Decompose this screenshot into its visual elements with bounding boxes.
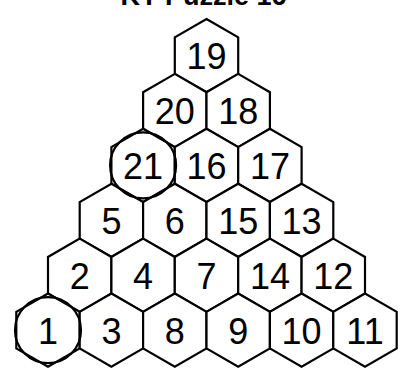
hex-number: 2 <box>70 256 90 297</box>
hex-number: 13 <box>282 201 322 242</box>
hex-number: 4 <box>133 256 153 297</box>
hex-number: 9 <box>228 311 248 352</box>
hex-number: 17 <box>250 146 290 187</box>
hex-number: 3 <box>101 311 121 352</box>
hex-number: 14 <box>250 256 290 297</box>
hex-number: 5 <box>101 201 121 242</box>
hex-number: 1 <box>38 311 58 352</box>
hex-number: 6 <box>165 201 185 242</box>
hex-number: 18 <box>218 91 258 132</box>
hex-number: 20 <box>155 91 195 132</box>
hex-number: 12 <box>313 256 353 297</box>
hex-number: 8 <box>165 311 185 352</box>
hex-pyramid-board: 192018211617561513247141213891011 <box>0 0 407 386</box>
hex-number: 16 <box>186 146 226 187</box>
hex-number: 19 <box>186 36 226 77</box>
hex-number: 15 <box>218 201 258 242</box>
hex-number: 11 <box>346 311 383 352</box>
hex-number: 7 <box>196 256 216 297</box>
hex-number: 21 <box>123 146 163 187</box>
hex-number: 10 <box>282 311 322 352</box>
